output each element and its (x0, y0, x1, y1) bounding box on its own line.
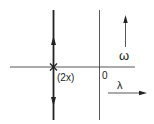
lambda-label: λ (117, 80, 123, 91)
omega-arrow-icon (123, 15, 127, 23)
origin-label: 0 (102, 71, 108, 81)
pole-multiplicity-label: (2x) (57, 73, 74, 83)
lambda-arrow-icon (139, 91, 147, 95)
locus-arrow-down-icon (51, 97, 56, 106)
root-locus-plot (0, 0, 154, 124)
locus-arrow-up-icon (51, 36, 56, 45)
omega-label: ω (119, 49, 129, 62)
